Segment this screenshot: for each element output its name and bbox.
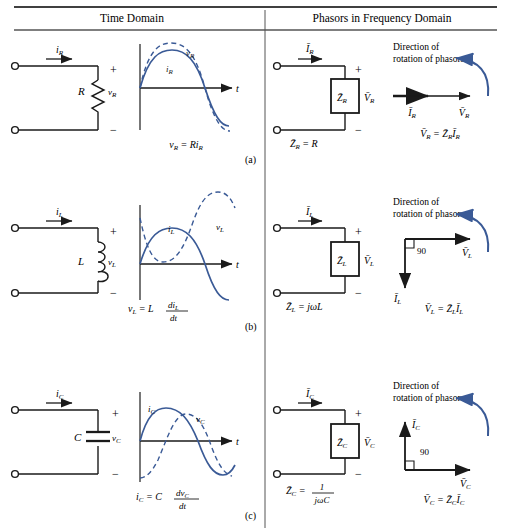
- capacitor-waveform: [140, 392, 235, 482]
- capacitor-circuit: [12, 403, 110, 477]
- capacitor-time-axis-label: t: [236, 436, 239, 447]
- resistor-voltage-curve: [140, 43, 230, 131]
- inductor-right-angle-marker: [405, 239, 414, 248]
- figure-canvas: Time Domain Phasors in Frequency Domain …: [0, 0, 509, 532]
- inductor-diagram-voltage-label: V̄L: [462, 247, 472, 260]
- inductor-diagram-current-label: ĪL: [393, 293, 401, 306]
- capacitor-equation: iC = C dvC dt: [136, 488, 199, 511]
- capacitor-phasor-current-label: ĪC: [305, 388, 314, 401]
- row-capacitor: iC C vC + − iC vC t iC = C dvC dt: [12, 381, 489, 522]
- inductor-minus-sign: −: [110, 286, 117, 300]
- inductor-phasor-voltage-label: V̄L: [364, 255, 374, 268]
- resistor-minus-sign: −: [110, 123, 117, 137]
- capacitor-right-angle-marker: [405, 461, 414, 470]
- resistor-wave-voltage-label: vR: [186, 48, 195, 60]
- inductor-circuit: [12, 221, 108, 296]
- inductor-wave-voltage-label: vL: [216, 222, 224, 234]
- inductor-plus-sign: +: [110, 225, 117, 239]
- capacitor-rotation-note-line1: Direction of: [393, 381, 440, 391]
- inductor-phasor-plus: +: [355, 225, 362, 239]
- svg-text:dt: dt: [170, 313, 178, 323]
- svg-text:dvC: dvC: [176, 488, 190, 499]
- svg-text:vL = L: vL = L: [128, 303, 154, 316]
- svg-text:Z̄C =: Z̄C =: [286, 485, 305, 498]
- resistor-phasor-current-label: ĪR: [305, 43, 314, 56]
- row-label-c: (c): [245, 510, 256, 522]
- figure-root: Time Domain Phasors in Frequency Domain …: [0, 0, 509, 532]
- resistor-rotation-note-line1: Direction of: [393, 42, 440, 52]
- capacitor-diagram-current-label: ĪC: [411, 419, 420, 432]
- inductor-phasor-circuit: [274, 221, 359, 296]
- resistor-circuit: [12, 59, 104, 133]
- inductor-waveform: [140, 192, 235, 300]
- capacitor-voltage-curve: [140, 414, 232, 478]
- inductor-rotation-note-line1: Direction of: [393, 197, 440, 207]
- capacitor-phasor-plus: +: [355, 407, 362, 421]
- capacitor-phasor-voltage-label: V̄C: [364, 437, 375, 450]
- inductor-current-label: iL: [56, 206, 63, 219]
- inductor-time-axis-label: t: [236, 259, 239, 270]
- inductor-phasor-minus: −: [355, 286, 362, 300]
- inductor-phasor-relation: V̄L = Z̄LĪL: [425, 303, 464, 316]
- resistor-wave-current-label: iR: [166, 64, 174, 76]
- svg-text:dt: dt: [179, 501, 187, 511]
- resistor-plus-sign: +: [110, 63, 117, 77]
- row-label-b: (b): [245, 321, 257, 333]
- svg-text:1: 1: [320, 482, 325, 492]
- capacitor-current-label: iC: [56, 388, 64, 401]
- capacitor-phasor-relation: V̄C = Z̄CĪC: [424, 494, 465, 507]
- resistor-current-label: iR: [56, 44, 64, 57]
- capacitor-impedance-equation: Z̄C = 1 jωC: [286, 482, 334, 505]
- inductor-rotation-arc: [456, 214, 488, 252]
- resistor-equation: vR = RiR: [169, 139, 203, 152]
- resistor-phasor-relation: V̄R = Z̄RĪR: [420, 128, 460, 141]
- resistor-impedance-equation: Z̄R = R: [290, 138, 318, 151]
- capacitor-wave-voltage-label: vC: [196, 414, 205, 426]
- resistor-diagram-current-label: ĪR: [407, 107, 416, 120]
- capacitor-plus-sign: +: [112, 407, 119, 421]
- svg-text:diL: diL: [168, 300, 179, 311]
- inductor-rotation-note-line2: rotation of phasors: [393, 209, 465, 219]
- svg-text:jωC: jωC: [314, 495, 331, 505]
- resistor-phasor-minus: −: [355, 123, 362, 137]
- capacitor-rotation-arc: [456, 398, 488, 436]
- svg-text:iC = C: iC = C: [136, 491, 162, 504]
- capacitor-wave-current-label: iC: [148, 404, 156, 416]
- resistor-rotation-note-line2: rotation of phasors: [393, 54, 465, 64]
- capacitor-voltage-label: vC: [112, 433, 121, 445]
- resistor-phasor-plus: +: [355, 63, 362, 77]
- row-inductor: iL L vL + − iL vL t vL = L diL dt: [12, 192, 489, 333]
- inductor-phasor-diagram: [405, 239, 470, 288]
- resistor-element-label: R: [77, 85, 85, 97]
- resistor-phasor-voltage-label: V̄R: [364, 92, 375, 105]
- header-time-domain: Time Domain: [100, 12, 164, 24]
- inductor-phasor-current-label: ĪL: [305, 206, 313, 219]
- capacitor-element-label: C: [74, 431, 82, 443]
- capacitor-rotation-note-line2: rotation of phasors: [393, 393, 465, 403]
- resistor-time-axis-label: t: [236, 83, 239, 94]
- row-resistor: iR R vR + − vR iR t vR = RiR ĪR Z̄R V̄R: [12, 42, 489, 166]
- inductor-equation: vL = L diL dt: [128, 300, 188, 323]
- capacitor-angle-label: 90: [420, 447, 430, 457]
- row-label-a: (a): [245, 154, 256, 166]
- resistor-diagram-voltage-label: V̄R: [459, 107, 470, 120]
- capacitor-phasor-minus: −: [355, 467, 362, 481]
- capacitor-phasor-circuit: [274, 403, 359, 477]
- inductor-angle-label: 90: [417, 246, 427, 256]
- inductor-wave-current-label: iL: [168, 224, 175, 236]
- inductor-impedance-equation: Z̄L = jωL: [286, 301, 323, 314]
- inductor-voltage-label: vL: [108, 257, 116, 269]
- capacitor-minus-sign: −: [112, 467, 119, 481]
- inductor-element-label: L: [77, 255, 84, 267]
- resistor-voltage-label: vR: [108, 87, 117, 99]
- header-phasor-domain: Phasors in Frequency Domain: [313, 12, 452, 25]
- capacitor-diagram-voltage-label: V̄C: [460, 478, 471, 491]
